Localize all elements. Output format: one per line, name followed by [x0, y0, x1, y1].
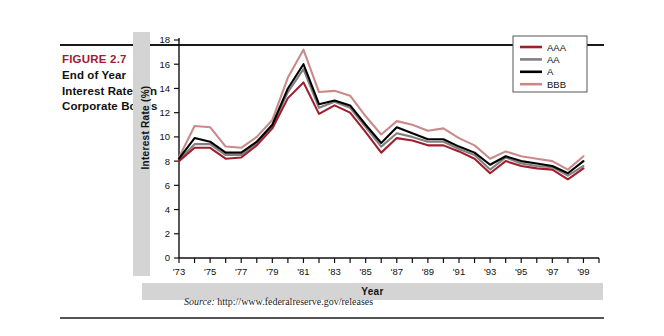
legend-label-a: A: [547, 66, 554, 77]
y-tick-label: 12: [159, 107, 170, 118]
y-tick-label: 10: [159, 131, 170, 142]
x-tick-label: '77: [235, 266, 247, 277]
line-chart-svg: 024681012141618'73'75'77'79'81'83'85'87'…: [133, 30, 603, 285]
x-tick-label: '93: [484, 266, 496, 277]
figure-bottom-rule: [60, 317, 604, 319]
x-tick-label: '85: [359, 266, 371, 277]
source-note: Source: http://www.federalreserve.gov/re…: [184, 296, 373, 307]
chart-plot-area: Interest Rate (%) Year 024681012141618'7…: [133, 30, 603, 285]
x-tick-label: '75: [204, 266, 216, 277]
y-tick-label: 18: [159, 34, 170, 45]
x-tick-label: '87: [391, 266, 403, 277]
x-tick-label: '81: [297, 266, 309, 277]
y-tick-label: 8: [165, 156, 170, 167]
x-tick-label: '79: [266, 266, 278, 277]
y-tick-label: 16: [159, 59, 170, 70]
y-tick-label: 6: [165, 180, 170, 191]
y-tick-label: 4: [165, 204, 170, 215]
source-url: http://www.federalreserve.gov/releases: [217, 296, 373, 307]
y-tick-label: 14: [159, 83, 170, 94]
x-tick-label: '91: [453, 266, 465, 277]
legend-label-aa: AA: [547, 54, 560, 65]
x-tick-label: '97: [546, 266, 558, 277]
x-tick-label: '73: [173, 266, 185, 277]
legend-label-aaa: AAA: [547, 42, 567, 53]
x-tick-label: '83: [328, 266, 340, 277]
y-tick-label: 0: [165, 252, 170, 263]
x-tick-label: '95: [515, 266, 527, 277]
y-tick-label: 2: [165, 228, 170, 239]
x-tick-label: '89: [422, 266, 434, 277]
source-prefix: Source:: [184, 296, 215, 307]
legend-label-bbb: BBB: [547, 79, 566, 90]
figure-container: FIGURE 2.7 End of Year Interest Rates on…: [0, 0, 664, 336]
x-tick-label: '99: [577, 266, 589, 277]
